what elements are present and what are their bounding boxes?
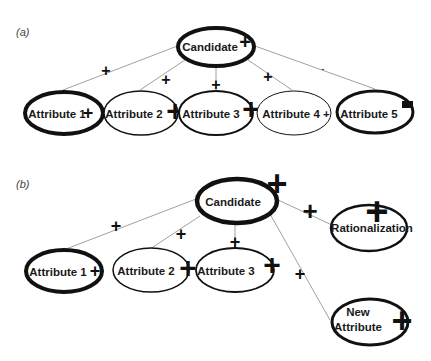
node-b-attr3-sign: + [263,248,281,281]
node-a-attr5-label: Attribute 5 [340,108,398,120]
node-b-attr3-label: Attribute 3 [197,265,255,277]
node-b-attr1-label: Attribute 1 [29,266,87,278]
node-b-attr1-sign: + [90,261,101,281]
node-a-attr3-sign: + [242,92,260,125]
node-b-new-attribute-sign: + [391,300,412,341]
node-a-attr4-label: Attribute 4 + [262,108,330,120]
edge-sign-a2: + [161,71,170,88]
edge-sign-b2: + [176,224,187,244]
edge-sign-b4: + [302,196,317,226]
node-a-attr3-label: Attribute 3 [182,108,240,120]
node-b-attr2-label: Attribute 2 [117,265,175,277]
node-b-new-attribute-label-line1: New [346,306,370,318]
node-b-new-attribute-label-line2: Attribute [334,321,382,333]
panel-b: (b) + + + + + Candidate + Rationalizatio… [16,163,413,345]
node-b-candidate-sign: + [266,163,287,204]
edge-sign-b1: + [111,216,122,236]
node-b-rationalization-sign: + [365,189,388,233]
node-a-attr1-sign: + [83,103,94,123]
edge-a-candidate-attr5 [255,46,375,89]
edge-sign-a4: + [263,68,272,85]
panel-a: (a) + + + + - Candidate + Attribute 1 + … [16,26,413,135]
node-b-candidate-label: Candidate [205,196,261,208]
node-a-attr1-label: Attribute 1 [28,108,86,120]
edge-sign-a1: + [101,62,110,79]
panel-a-label: (a) [16,26,30,38]
node-a-attr2-label: Attribute 2 [105,108,163,120]
node-b-attr2-sign: + [179,251,197,284]
node-a-candidate-sign: + [239,31,251,53]
diagram-canvas: (a) + + + + - Candidate + Attribute 1 + … [0,0,431,361]
edge-sign-b5: + [295,264,306,284]
node-a-attr5-sign [402,101,413,108]
panel-b-label: (b) [16,178,30,190]
node-a-candidate-label: Candidate [182,41,238,53]
